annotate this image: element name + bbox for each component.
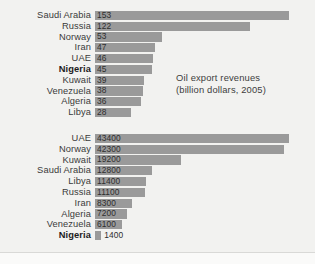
oil-chart-category-label: Algeria: [61, 96, 91, 107]
gdp-chart-value-label: 19200: [97, 155, 121, 164]
oil-chart-category-label: Russia: [62, 21, 91, 32]
gdp-chart-value-label: 7200: [97, 209, 116, 218]
oil-chart-row: Russia122: [0, 21, 315, 32]
oil-chart-value-label: 47: [97, 43, 107, 52]
oil-chart-bar-wrap: 122: [95, 22, 250, 31]
gdp-chart-bar-wrap: 8300: [95, 199, 132, 208]
gdp-chart-bar: [95, 134, 289, 143]
gdp-chart-category-label: Nigeria: [59, 230, 91, 241]
oil-chart-row: Saudi Arabia153: [0, 10, 315, 21]
gdp-chart-bar: [95, 231, 101, 240]
gdp-chart-bar-wrap: 1400: [95, 231, 101, 240]
oil-chart-bar-wrap: 153: [95, 11, 289, 20]
gdp-chart-category-label: Norway: [59, 144, 91, 155]
gdp-chart-category-label: Kuwait: [62, 155, 91, 166]
gdp-chart-row: Russia11100: [0, 187, 315, 198]
gdp-chart-row: Algeria7200: [0, 209, 315, 220]
oil-chart-value-label: 28: [97, 108, 107, 117]
oil-chart-bar-wrap: 36: [95, 97, 141, 106]
gdp-chart-value-label: 43400: [97, 134, 121, 143]
gdp-chart-row: Saudi Arabia12800: [0, 165, 315, 176]
oil-chart-category-label: Norway: [59, 32, 91, 43]
gdp-chart-row: Nigeria1400: [0, 230, 315, 241]
gdp-chart-value-label: 6100: [97, 220, 116, 229]
oil-chart-bar-wrap: 39: [95, 76, 144, 85]
gdp-chart-value-label: 8300: [97, 199, 116, 208]
oil-chart-row: UAE46: [0, 53, 315, 64]
oil-chart-subtitle: (billion dollars, 2005): [176, 84, 266, 96]
oil-chart-category-label: UAE: [72, 53, 91, 64]
oil-chart-bar: [95, 22, 250, 31]
oil-chart-bar-wrap: 38: [95, 86, 143, 95]
gdp-chart-category-label: Libya: [68, 176, 91, 187]
gdp-chart-value-label: 11400: [97, 177, 120, 186]
gdp-chart-row: Libya11400: [0, 176, 315, 187]
oil-chart-value-label: 39: [97, 76, 107, 85]
gdp-chart-row: Venezuela6100: [0, 219, 315, 230]
gdp-chart-category-label: Iran: [75, 198, 91, 209]
oil-export-revenues-chart: Saudi Arabia153Russia122Norway53Iran47UA…: [0, 10, 315, 118]
oil-chart-row: Iran47: [0, 42, 315, 53]
oil-chart-rows: Saudi Arabia153Russia122Norway53Iran47UA…: [0, 10, 315, 118]
gdp-chart-bar-wrap: 12800: [95, 166, 152, 175]
oil-chart-category-label: Iran: [75, 42, 91, 53]
gdp-chart-row: UAE43400: [0, 133, 315, 144]
oil-chart-category-label: Kuwait: [62, 75, 91, 86]
oil-chart-value-label: 38: [97, 86, 107, 95]
oil-chart-bar-wrap: 28: [95, 108, 131, 117]
gdp-chart-bar-wrap: 42300: [95, 145, 284, 154]
oil-chart-bar-wrap: 53: [95, 32, 162, 41]
oil-chart-row: Venezuela38: [0, 86, 315, 97]
oil-chart-value-label: 53: [97, 32, 107, 41]
gdp-chart-row: Kuwait19200: [0, 155, 315, 166]
oil-chart-row: Nigeria45: [0, 64, 315, 75]
gdp-chart-value-label: 42300: [97, 145, 121, 154]
oil-chart-row: Libya28: [0, 107, 315, 118]
gdp-chart-row: Norway42300: [0, 144, 315, 155]
oil-chart-category-label: Nigeria: [59, 64, 91, 75]
oil-chart-value-label: 36: [97, 97, 107, 106]
oil-chart-bar: [95, 11, 289, 20]
infographic-page: Saudi Arabia153Russia122Norway53Iran47UA…: [0, 0, 315, 264]
oil-chart-category-label: Saudi Arabia: [37, 10, 91, 21]
oil-chart-value-label: 45: [97, 65, 107, 74]
oil-chart-bar-wrap: 46: [95, 54, 153, 63]
gdp-chart-value-label: 1400: [104, 231, 123, 240]
oil-chart-title: Oil export revenues: [176, 72, 260, 83]
gdp-chart-bar-wrap: 43400: [95, 134, 289, 143]
gdp-chart-rows: UAE43400Norway42300Kuwait19200Saudi Arab…: [0, 133, 315, 241]
oil-chart-annotation: Oil export revenues (billion dollars, 20…: [176, 72, 266, 96]
gdp-chart-bar: [95, 145, 284, 154]
gdp-chart-category-label: Algeria: [61, 209, 91, 220]
oil-chart-row: Kuwait39: [0, 75, 315, 86]
gdp-chart-value-label: 11100: [97, 188, 120, 197]
gdp-chart-value-label: 12800: [97, 166, 121, 175]
gdp-chart-category-label: Venezuela: [47, 219, 91, 230]
gdp-chart-bar-wrap: 7200: [95, 209, 127, 218]
gdp-chart-bar-wrap: 6100: [95, 220, 122, 229]
oil-chart-bar-wrap: 47: [95, 43, 155, 52]
oil-chart-bar-wrap: 45: [95, 65, 152, 74]
oil-chart-value-label: 122: [97, 22, 111, 31]
oil-chart-row: Algeria36: [0, 96, 315, 107]
oil-chart-value-label: 153: [97, 11, 111, 20]
bottom-strip: [0, 253, 315, 264]
gdp-chart-row: Iran8300: [0, 198, 315, 209]
gdp-per-capita-chart: UAE43400Norway42300Kuwait19200Saudi Arab…: [0, 133, 315, 241]
gdp-chart-bar-wrap: 19200: [95, 155, 181, 164]
gdp-chart-category-label: Russia: [62, 187, 91, 198]
oil-chart-row: Norway53: [0, 32, 315, 43]
gdp-chart-bar-wrap: 11100: [95, 188, 145, 197]
oil-chart-category-label: Venezuela: [47, 86, 91, 97]
gdp-chart-category-label: UAE: [72, 133, 91, 144]
oil-chart-value-label: 46: [97, 54, 107, 63]
oil-chart-category-label: Libya: [68, 107, 91, 118]
gdp-chart-category-label: Saudi Arabia: [37, 165, 91, 176]
gdp-chart-bar-wrap: 11400: [95, 177, 146, 186]
